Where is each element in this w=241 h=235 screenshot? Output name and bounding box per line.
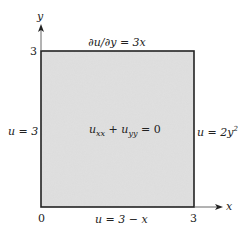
eq-rhs: = 0 [137,123,160,136]
y-tick-3: 3 [30,46,37,57]
right-bc-exponent: 2 [234,125,238,133]
right-boundary-condition: u = 2y2 [197,126,238,138]
eq-plus: + [105,123,121,136]
x-axis-label: x [226,201,232,212]
left-boundary-condition: u = 3 [8,126,38,137]
eq-sub-xx: xx [96,129,105,138]
bottom-boundary-condition: u = 3 − x [95,214,148,225]
laplace-equation: uxx + uyy = 0 [89,124,161,138]
x-tick-3: 3 [190,213,197,224]
top-boundary-condition: ∂u/∂y = 3x [88,37,146,48]
right-bc-base: u = 2y [197,126,234,139]
x-tick-0: 0 [38,213,45,224]
bvp-diagram: y x 3 0 3 ∂u/∂y = 3x u = 3 u = 2y2 u = 3… [0,0,241,235]
y-axis-label: y [37,11,43,22]
